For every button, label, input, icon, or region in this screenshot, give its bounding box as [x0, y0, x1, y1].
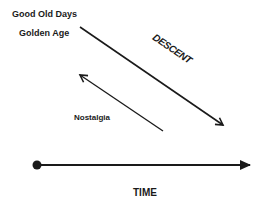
golden-age-label: Golden Age: [19, 28, 69, 38]
good-old-days-label: Good Old Days: [12, 9, 77, 19]
nostalgia-label: Nostalgia: [74, 113, 110, 122]
time-origin-dot: [33, 161, 42, 170]
nostalgia-arrow: [80, 75, 163, 131]
time-label: TIME: [133, 187, 157, 198]
